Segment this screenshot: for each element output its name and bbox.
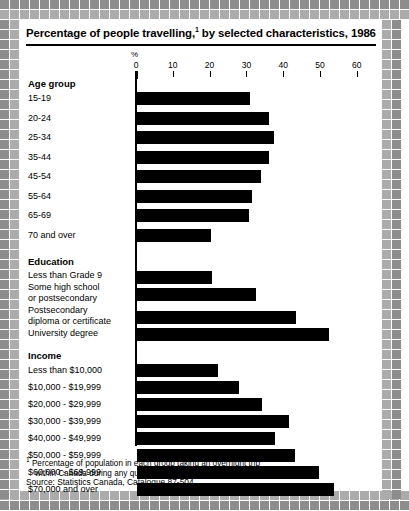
border-tile <box>0 480 9 489</box>
border-tile <box>290 0 299 9</box>
border-tile <box>382 190 391 199</box>
border-tile <box>10 330 19 339</box>
border-tile <box>392 140 401 149</box>
border-tile <box>10 310 19 319</box>
border-tile <box>400 0 409 9</box>
education-0-bar <box>137 271 212 284</box>
border-tile <box>40 0 49 9</box>
border-tile <box>330 10 339 19</box>
border-tile <box>0 200 9 209</box>
border-tile <box>382 440 391 449</box>
border-tile <box>360 501 369 510</box>
border-tile <box>382 490 391 499</box>
border-tile <box>0 190 9 199</box>
border-tile <box>382 290 391 299</box>
border-tile <box>392 320 401 329</box>
border-tile <box>392 60 401 69</box>
border-tile <box>210 10 219 19</box>
border-tile <box>310 10 319 19</box>
income-4-label: $40,000 - $49,999 <box>28 433 101 444</box>
border-tile <box>100 10 109 19</box>
border-tile <box>392 120 401 129</box>
border-tile <box>382 60 391 69</box>
border-tile <box>382 420 391 429</box>
border-tile <box>392 40 401 49</box>
age-5-bar <box>137 190 252 203</box>
border-tile <box>330 501 339 510</box>
border-tile <box>0 420 9 429</box>
age-5-label: 55-64 <box>28 191 51 202</box>
border-tile <box>382 240 391 249</box>
border-tile <box>370 491 379 500</box>
border-tile <box>400 491 409 500</box>
border-tile <box>382 480 391 489</box>
border-tile <box>382 20 391 29</box>
border-tile <box>392 260 401 269</box>
border-tile <box>382 90 391 99</box>
border-tile <box>390 0 399 9</box>
border-tile <box>10 490 19 499</box>
education-2-label: Postsecondarydiploma or certificate <box>28 305 111 326</box>
border-tile <box>10 220 19 229</box>
border-tile <box>340 0 349 9</box>
border-tile <box>392 360 401 369</box>
border-tile <box>360 0 369 9</box>
border-tile <box>350 10 359 19</box>
border-tile <box>10 300 19 309</box>
border-tile <box>0 30 9 39</box>
border-tile <box>260 10 269 19</box>
border-tile <box>10 110 19 119</box>
border-tile <box>392 420 401 429</box>
border-tile <box>170 10 179 19</box>
border-tile <box>340 491 349 500</box>
border-tile <box>0 160 9 169</box>
border-tile <box>20 501 29 510</box>
border-tile <box>10 360 19 369</box>
border-tile <box>340 501 349 510</box>
border-tile <box>0 320 9 329</box>
border-tile <box>0 360 9 369</box>
border-tile <box>40 501 49 510</box>
border-tile <box>10 200 19 209</box>
border-tile <box>160 10 169 19</box>
border-tile <box>392 370 401 379</box>
border-tile <box>382 210 391 219</box>
border-tile <box>70 0 79 9</box>
border-tile <box>392 180 401 189</box>
border-tile <box>250 501 259 510</box>
border-tile <box>10 90 19 99</box>
border-tile <box>392 150 401 159</box>
border-tile <box>0 470 9 479</box>
border-tile <box>370 501 379 510</box>
border-tile <box>180 0 189 9</box>
border-tile <box>0 80 9 89</box>
border-tile <box>10 140 19 149</box>
border-tile <box>390 501 399 510</box>
border-tile <box>10 420 19 429</box>
x-tick-mark-60 <box>357 71 358 77</box>
border-tile <box>382 300 391 309</box>
page-title: Percentage of people travelling,1 by sel… <box>26 26 376 39</box>
border-tile <box>280 0 289 9</box>
border-tile <box>10 40 19 49</box>
border-tile <box>0 120 9 129</box>
x-tick-label-40: 40 <box>278 60 287 70</box>
border-tile <box>382 170 391 179</box>
border-tile <box>260 501 269 510</box>
border-tile <box>120 491 129 500</box>
border-tile <box>392 400 401 409</box>
border-tile <box>20 0 29 9</box>
border-tile <box>100 0 109 9</box>
border-tile <box>382 320 391 329</box>
income-1-bar <box>137 381 239 394</box>
border-tile <box>200 501 209 510</box>
border-tile <box>10 250 19 259</box>
border-tile <box>200 0 209 9</box>
border-tile <box>10 130 19 139</box>
border-tile <box>290 501 299 510</box>
border-tile <box>10 100 19 109</box>
border-tile <box>0 460 9 469</box>
border-tile <box>382 330 391 339</box>
border-tile <box>0 0 9 9</box>
border-tile <box>0 130 9 139</box>
